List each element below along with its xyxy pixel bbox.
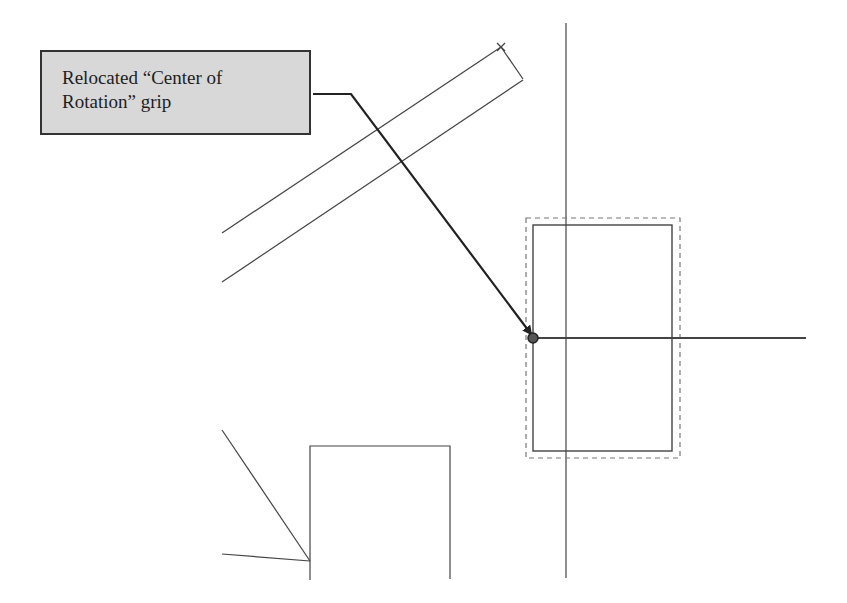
callout-box: Relocated “Center of Rotation” grip [40,50,311,135]
callout-leader-arrow [313,94,531,334]
callout-text-line-1: Relocated “Center of [62,66,309,90]
bottom-open-rectangle[interactable] [310,446,450,580]
callout-text-line-2: Rotation” grip [62,90,309,114]
center-of-rotation-grip-icon[interactable] [528,333,538,343]
converging-line-flat[interactable] [222,554,310,561]
wall-end-cap[interactable] [501,47,523,79]
converging-line-diagonal[interactable] [222,430,310,561]
endpoint-cross-icon [497,43,505,51]
